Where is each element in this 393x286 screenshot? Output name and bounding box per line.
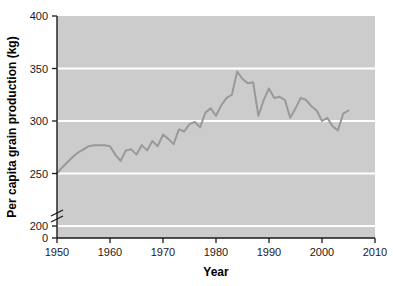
grain-production-line-chart: 0200250300350400 19501960197019801990200… [0,0,393,286]
y-tick-label-350: 350 [30,63,48,75]
x-tick-label-1950: 1950 [45,246,69,258]
x-tick-label-1960: 1960 [98,246,122,258]
x-tick-label-1980: 1980 [204,246,228,258]
y-tick-label-250: 250 [30,168,48,180]
x-tick-label-1990: 1990 [257,246,281,258]
y-axis-title: Per capita grain production (kg) [5,36,19,217]
y-tick-label-200: 200 [30,220,48,232]
x-tick-label-2010: 2010 [363,246,387,258]
y-tick-label-400: 400 [30,10,48,22]
x-tick-label-1970: 1970 [151,246,175,258]
chart-container: 0200250300350400 19501960197019801990200… [0,0,393,286]
x-axis-title: Year [203,265,229,279]
x-tick-label-2000: 2000 [310,246,334,258]
plot-area-background [57,16,375,238]
y-tick-label-0: 0 [42,232,48,244]
y-tick-label-300: 300 [30,115,48,127]
